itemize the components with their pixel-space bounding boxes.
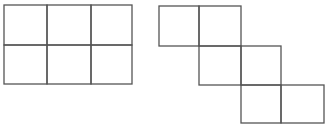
- rectangle-grid-2x3: [4, 5, 132, 84]
- grid-square: [281, 85, 324, 123]
- grid-square: [159, 6, 199, 46]
- grid-square: [241, 85, 281, 123]
- grid-square: [91, 5, 132, 45]
- staircase-net-6-squares: [159, 6, 324, 123]
- diagram-canvas: [0, 0, 331, 133]
- grid-square: [47, 5, 91, 45]
- grid-square: [199, 46, 241, 85]
- grid-square: [199, 6, 241, 46]
- grid-square: [91, 45, 132, 84]
- grid-square: [4, 5, 47, 45]
- grid-square: [47, 45, 91, 84]
- grid-square: [241, 46, 281, 85]
- grid-square: [4, 45, 47, 84]
